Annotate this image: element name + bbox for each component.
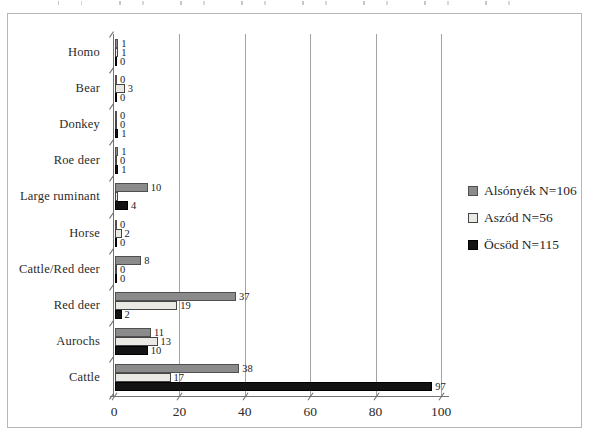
bar-row-ocsod: 1 — [115, 129, 127, 138]
bar-ocsod — [115, 346, 148, 355]
bar-value-label: 0 — [120, 238, 125, 247]
bar-aszod — [115, 192, 118, 201]
bar-value-label: 2 — [125, 310, 130, 319]
bar-ocsod — [115, 274, 117, 283]
bar-row-alsonyek: 10 — [115, 183, 161, 192]
cropped-caption-remnant — [58, 1, 540, 5]
x-axis-tick-label: 40 — [223, 404, 267, 420]
category-label: Cattle/Red deer — [8, 251, 104, 287]
category-label: Roe deer — [8, 143, 104, 179]
category-label: Large ruminant — [8, 179, 104, 215]
bar-row-ocsod: 0 — [115, 57, 125, 66]
bar-row-ocsod: 2 — [115, 310, 130, 319]
bar-row-aszod — [115, 192, 118, 201]
gridline-x60 — [310, 34, 311, 396]
x-axis-tick-label: 0 — [92, 404, 136, 420]
category-label: Homo — [8, 34, 104, 70]
bar-row-ocsod: 0 — [115, 93, 125, 102]
bar-value-label: 0 — [120, 57, 125, 66]
bar-row-ocsod: 10 — [115, 346, 161, 355]
bar-value-label: 97 — [435, 382, 446, 391]
bar-value-label: 4 — [131, 201, 136, 210]
bar-row-alsonyek: 11 — [115, 328, 164, 337]
bar-value-label: 13 — [161, 337, 172, 346]
bar-value-label: 2 — [125, 229, 130, 238]
bar-value-label: 1 — [121, 129, 126, 138]
bar-aszod — [115, 120, 117, 129]
bar-row-aszod: 13 — [115, 337, 171, 346]
category-label: Bear — [8, 70, 104, 106]
chart-frame: 020406080100Homo110Bear030Donkey001Roe d… — [7, 13, 582, 428]
bar-ocsod — [115, 129, 118, 138]
bar-alsonyek — [115, 147, 118, 156]
bar-row-aszod: 17 — [115, 373, 184, 382]
bar-alsonyek — [115, 39, 118, 48]
bar-aszod — [115, 373, 171, 382]
bar-row-ocsod: 4 — [115, 201, 136, 210]
x-axis-tick-label: 20 — [157, 404, 201, 420]
bar-row-ocsod: 0 — [115, 238, 125, 247]
bar-row-ocsod: 1 — [115, 165, 127, 174]
bar-aszod — [115, 48, 118, 57]
legend: Alsónyék N=106Aszód N=56Öcsöd N=115 — [468, 182, 577, 254]
bar-value-label: 3 — [128, 84, 133, 93]
category-label: Cattle — [8, 360, 104, 396]
bar-alsonyek — [115, 183, 148, 192]
bar-value-label: 37 — [239, 292, 250, 301]
category-label: Red deer — [8, 287, 104, 323]
bar-alsonyek — [115, 292, 236, 301]
bar-ocsod — [115, 382, 432, 391]
category-label: Aurochs — [8, 324, 104, 360]
bar-value-label: 0 — [120, 274, 125, 283]
x-axis-tick-label: 100 — [419, 404, 463, 420]
bar-aszod — [115, 265, 117, 274]
legend-item-aszod: Aszód N=56 — [468, 209, 577, 227]
bar-alsonyek — [115, 75, 117, 84]
bar-row-ocsod: 97 — [115, 382, 446, 391]
bar-value-label: 1 — [121, 165, 126, 174]
bar-alsonyek — [115, 256, 141, 265]
gridline-x40 — [245, 34, 246, 396]
bar-value-label: 10 — [151, 346, 162, 355]
gridline-x80 — [376, 34, 377, 396]
x-axis-line — [110, 396, 449, 397]
category-label: Donkey — [8, 106, 104, 142]
legend-swatch-icon — [468, 240, 478, 250]
bar-row-alsonyek: 0 — [115, 220, 125, 229]
legend-label: Öcsöd N=115 — [484, 237, 559, 253]
legend-swatch-icon — [468, 213, 478, 223]
legend-item-ocsod: Öcsöd N=115 — [468, 236, 577, 254]
bar-value-label: 8 — [144, 256, 149, 265]
category-label: Horse — [8, 215, 104, 251]
bar-alsonyek — [115, 328, 151, 337]
bar-alsonyek — [115, 111, 117, 120]
bar-value-label: 10 — [151, 183, 162, 192]
legend-label: Aszód N=56 — [484, 210, 553, 226]
bar-value-label: 17 — [174, 373, 185, 382]
bar-ocsod — [115, 57, 117, 66]
legend-label: Alsónyék N=106 — [484, 183, 577, 199]
gridline-x100 — [441, 34, 442, 396]
figure: 020406080100Homo110Bear030Donkey001Roe d… — [0, 0, 592, 440]
bar-ocsod — [115, 201, 128, 210]
bar-row-ocsod: 0 — [115, 274, 125, 283]
bar-value-label: 0 — [120, 75, 125, 84]
bar-row-alsonyek: 0 — [115, 75, 125, 84]
bar-value-label: 19 — [180, 301, 191, 310]
bar-ocsod — [115, 165, 118, 174]
bar-alsonyek — [115, 220, 117, 229]
bar-ocsod — [115, 310, 122, 319]
bar-ocsod — [115, 238, 117, 247]
bar-value-label: 38 — [242, 364, 253, 373]
x-axis-tick-label: 80 — [354, 404, 398, 420]
x-axis-tick-label: 60 — [288, 404, 332, 420]
bar-aszod — [115, 156, 117, 165]
legend-swatch-icon — [468, 186, 478, 196]
bar-ocsod — [115, 93, 117, 102]
legend-item-alsonyek: Alsónyék N=106 — [468, 182, 577, 200]
bar-value-label: 0 — [120, 93, 125, 102]
y-axis-line — [113, 34, 114, 396]
gridline-x20 — [179, 34, 180, 396]
